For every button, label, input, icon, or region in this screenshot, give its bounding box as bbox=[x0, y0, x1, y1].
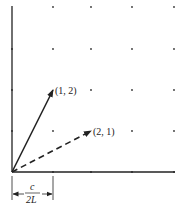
vector-2-1 bbox=[12, 131, 91, 172]
spacing-dimension: c 2L bbox=[12, 176, 53, 205]
spacing-numerator: c bbox=[30, 181, 35, 192]
vector-2-1-label: (2, 1) bbox=[93, 126, 115, 138]
lattice-diagram: (1, 2) (2, 1) c 2L bbox=[0, 0, 187, 216]
vector-1-2-label: (1, 2) bbox=[55, 85, 77, 97]
lattice-dots bbox=[11, 6, 175, 173]
vector-1-2 bbox=[12, 90, 53, 172]
spacing-denominator: 2L bbox=[26, 194, 37, 205]
